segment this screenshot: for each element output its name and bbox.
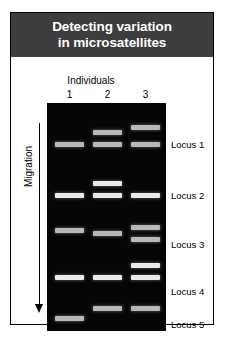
migration-axis: Migration [11, 103, 47, 331]
locus-label-4: Locus 4 [171, 286, 217, 297]
figure-title-line-1: Detecting variation [52, 19, 172, 35]
gel-band [131, 193, 160, 198]
figure-title-line-2: in microsatellites [58, 35, 167, 51]
gel-band [55, 228, 84, 233]
gel-band [93, 142, 122, 147]
locus-label-1: Locus 1 [171, 139, 217, 150]
figure-frame: Detecting variation in microsatellites I… [10, 12, 214, 325]
gel-band [93, 181, 122, 186]
gel-band [131, 275, 160, 280]
gel-band [131, 225, 160, 230]
migration-arrow-line-icon [39, 123, 40, 307]
gel-band [93, 130, 122, 135]
lane-number-2: 2 [98, 89, 118, 100]
locus-label-3: Locus 3 [171, 239, 217, 250]
gel-band [93, 275, 122, 280]
figure-body: Individuals 123 Migration Locus 1Locus 2… [11, 57, 213, 324]
gel-band [55, 142, 84, 147]
gel-band [131, 237, 160, 242]
figure-title-banner: Detecting variation in microsatellites [11, 13, 213, 57]
gel-band [55, 193, 84, 198]
gel-band [93, 231, 122, 236]
gel-panel [47, 103, 166, 331]
locus-label-2: Locus 2 [171, 190, 217, 201]
locus-label-5: Locus 5 [171, 319, 217, 330]
gel-band [93, 193, 122, 198]
gel-band [131, 142, 160, 147]
lane-number-1: 1 [60, 89, 80, 100]
migration-axis-label: Migration [23, 112, 34, 222]
gel-band [55, 275, 84, 280]
gel-band [131, 263, 160, 268]
individuals-axis-label: Individuals [11, 75, 171, 86]
gel-band [93, 306, 122, 311]
migration-arrow-head-icon [35, 304, 43, 313]
gel-band [55, 316, 84, 321]
gel-band [131, 125, 160, 130]
lane-number-3: 3 [136, 89, 156, 100]
gel-band [131, 306, 160, 311]
